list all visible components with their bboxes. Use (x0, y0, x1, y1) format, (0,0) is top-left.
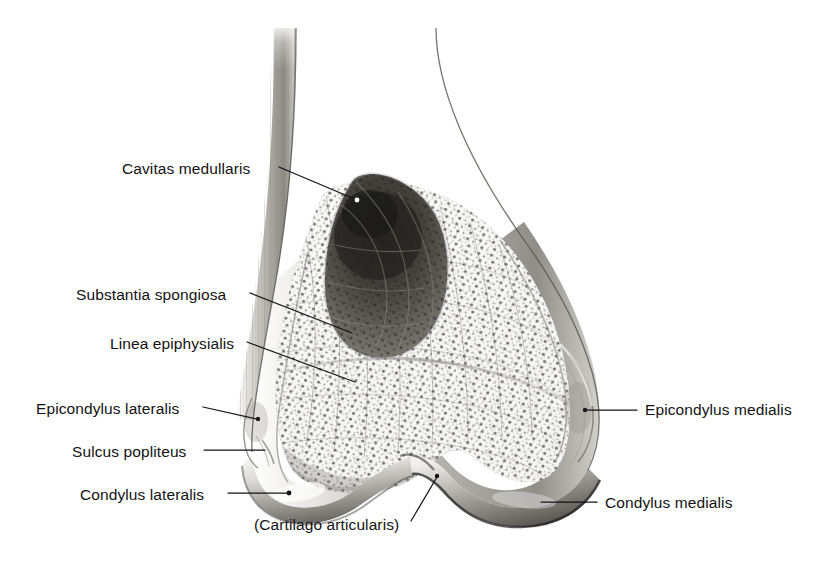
label-linea-epiphysialis: Linea epiphysialis (110, 336, 234, 352)
label-sulcus-popliteus: Sulcus popliteus (72, 444, 186, 460)
label-epicondylus-lateralis: Epicondylus lateralis (36, 401, 179, 417)
anchor-dot-epicondylus-medialis (583, 408, 587, 412)
anchor-dot-cartilago-articularis (435, 474, 439, 478)
anchor-dot-condylus-lateralis (287, 491, 292, 496)
label-epicondylus-medialis: Epicondylus medialis (645, 402, 792, 418)
label-condylus-lateralis: Condylus lateralis (80, 487, 204, 503)
label-substantia-spongiosa: Substantia spongiosa (76, 287, 226, 303)
anatomical-figure: Cavitas medullarisSubstantia spongiosaLi… (0, 0, 832, 575)
anchor-dot-epicondylus-lateralis (256, 417, 260, 421)
anchor-dot-cavitas-medullaris (355, 198, 360, 203)
label-cartilago-articularis: (Cartilago articularis) (254, 517, 399, 533)
label-condylus-medialis: Condylus medialis (605, 495, 732, 511)
label-cavitas-medullaris: Cavitas medullaris (122, 161, 250, 177)
